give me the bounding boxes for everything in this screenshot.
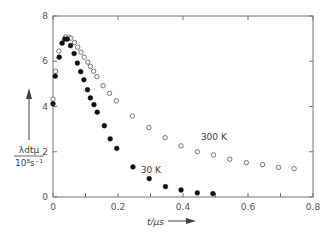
open-circle-marker: [91, 69, 95, 73]
filled-circle-marker: [163, 184, 168, 189]
x-tick-label: 0.6: [241, 202, 256, 212]
open-circle-marker: [260, 162, 264, 166]
open-circle-marker: [82, 55, 86, 59]
filled-circle-marker: [78, 69, 83, 74]
filled-circle-marker: [102, 123, 107, 128]
filled-circle-marker: [75, 61, 80, 66]
y-tick-label: 4: [42, 102, 48, 112]
axis-ticks: 00.20.40.60.802468: [42, 11, 320, 212]
series-label-300k: 300 K: [201, 132, 228, 142]
y-axis-label-denominator: 10⁸s⁻¹: [15, 158, 43, 168]
x-tick-label: 0.2: [111, 202, 125, 212]
open-circle-marker: [195, 150, 199, 154]
filled-circle-marker: [53, 74, 58, 79]
y-axis-arrowhead-icon: [26, 88, 32, 99]
filled-circle-marker: [65, 37, 70, 42]
filled-circle-marker: [92, 102, 97, 107]
x-axis-label: t/μs: [147, 217, 196, 227]
x-tick-label: 0.4: [176, 202, 191, 212]
series-300k: [51, 35, 297, 171]
open-circle-marker: [114, 99, 118, 103]
open-circle-marker: [163, 136, 167, 140]
x-axis-arrowhead-icon: [186, 218, 196, 224]
filled-circle-marker: [57, 55, 62, 60]
filled-circle-marker: [108, 136, 113, 141]
open-circle-marker: [107, 91, 111, 95]
open-circle-marker: [53, 69, 57, 73]
filled-circle-marker: [179, 188, 184, 193]
filled-circle-marker: [147, 176, 152, 181]
filled-circle-marker: [95, 110, 100, 115]
plot-frame: [53, 16, 313, 197]
filled-circle-marker: [81, 77, 86, 82]
filled-circle-marker: [195, 191, 200, 196]
open-circle-marker: [130, 114, 134, 118]
open-circle-marker: [147, 125, 151, 129]
filled-circle-marker: [211, 191, 216, 196]
filled-circle-marker: [85, 87, 90, 92]
plot-border: [53, 16, 313, 197]
y-tick-label: 6: [42, 56, 48, 66]
open-circle-marker: [179, 144, 183, 148]
open-circle-marker: [228, 157, 232, 161]
filled-circle-marker: [72, 51, 77, 56]
y-tick-label: 2: [42, 147, 48, 157]
open-circle-marker: [76, 45, 80, 49]
filled-circle-marker: [51, 101, 56, 106]
x-tick-label: 0: [50, 202, 56, 212]
x-tick-label: 0.8: [306, 202, 321, 212]
filled-circle-marker: [68, 43, 73, 48]
series-label-30k: 30 K: [141, 165, 162, 175]
open-circle-marker: [276, 165, 280, 169]
y-axis-label: λdtμ 10⁸s⁻¹: [14, 88, 44, 168]
open-circle-marker: [88, 64, 92, 68]
open-circle-marker: [51, 97, 55, 101]
y-tick-label: 8: [42, 11, 48, 21]
y-tick-label: 0: [42, 192, 48, 202]
filled-circle-marker: [131, 165, 136, 170]
y-axis-label-numerator: λdtμ: [19, 145, 40, 155]
open-circle-marker: [292, 167, 296, 171]
open-circle-marker: [244, 160, 248, 164]
open-circle-marker: [86, 60, 90, 64]
open-circle-marker: [95, 74, 99, 78]
filled-circle-marker: [114, 146, 119, 151]
open-circle-marker: [57, 49, 61, 53]
chart: 00.20.40.60.802468 300 K 30 K λdtμ 10⁸s⁻…: [0, 0, 331, 233]
open-circle-marker: [72, 40, 76, 44]
open-circle-marker: [79, 50, 83, 54]
data-points: [51, 35, 297, 196]
open-circle-marker: [101, 83, 105, 87]
filled-circle-marker: [88, 96, 93, 101]
open-circle-marker: [211, 153, 215, 157]
x-axis-label-text: t/μs: [147, 217, 164, 227]
